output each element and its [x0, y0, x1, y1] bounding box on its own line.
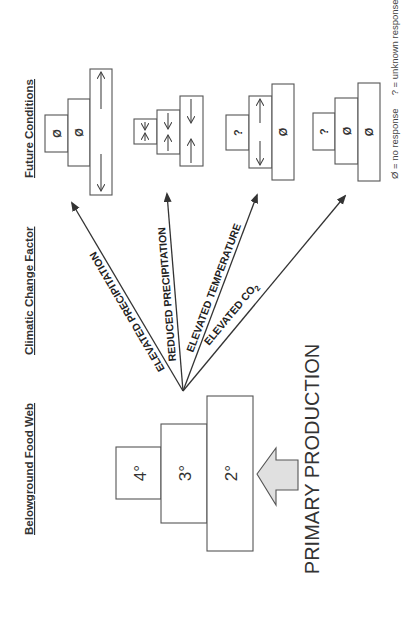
no-response-symbol: Ø: [341, 126, 353, 135]
factor-label-elevated-precipitation: ELEVATED PRECIPITATION: [87, 250, 167, 374]
level-2-label: 2°: [222, 465, 241, 481]
legend: Ø = no response ? = unknown response: [389, 0, 400, 179]
future-elevated-temperature: ? Ø: [226, 84, 294, 180]
primary-production-label: PRIMARY PRODUCTION: [301, 344, 323, 574]
primary-production-arrow-icon: [257, 448, 298, 505]
no-response-symbol: Ø: [51, 129, 63, 138]
header-belowground-food-web: Belowground Food Web: [23, 403, 35, 535]
unknown-symbol: ?: [318, 128, 330, 135]
food-web-climate-diagram: Belowground Food Web Climatic Change Fac…: [0, 0, 409, 629]
header-climatic-change-factor: Climatic Change Factor: [23, 226, 35, 355]
level-3-label: 3°: [176, 465, 195, 481]
future-reduced-precipitation: [134, 96, 203, 166]
food-web-pyramid: 4° 3° 2°: [116, 396, 253, 551]
no-response-symbol: Ø: [277, 127, 289, 136]
header-future-conditions: Future Conditions: [23, 79, 35, 178]
future-elevated-co2: ? Ø Ø: [313, 83, 380, 181]
future-elevated-precipitation: Ø Ø: [45, 69, 112, 195]
level-4-label: 4°: [131, 465, 150, 481]
no-response-symbol: Ø: [73, 128, 85, 137]
unknown-symbol: ?: [232, 129, 244, 136]
no-response-symbol: Ø: [363, 127, 375, 136]
